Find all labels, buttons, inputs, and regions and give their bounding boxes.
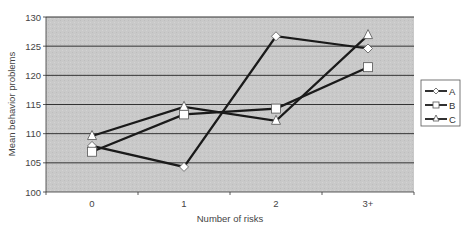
x-tick-label: 0 xyxy=(89,198,94,209)
y-tick-label: 120 xyxy=(25,70,41,81)
x-axis: 0123+ xyxy=(46,192,414,209)
line-chart: 100105110115120125130 0123+ Mean behavio… xyxy=(0,0,470,234)
y-tick-label: 110 xyxy=(26,128,41,139)
square-marker xyxy=(433,102,439,108)
x-axis-title: Number of risks xyxy=(197,213,264,224)
y-tick-label: 105 xyxy=(25,157,41,168)
square-marker xyxy=(364,63,373,72)
y-tick-label: 100 xyxy=(25,187,41,198)
y-axis-title: Mean behavior problems xyxy=(6,51,17,156)
legend: ABC xyxy=(421,80,460,126)
square-marker xyxy=(88,147,97,156)
x-tick-label: 1 xyxy=(181,198,186,209)
y-axis: 100105110115120125130 xyxy=(25,12,46,198)
square-marker xyxy=(180,110,189,119)
legend-label: C xyxy=(449,114,456,125)
square-marker xyxy=(272,104,281,113)
legend-label: B xyxy=(449,100,455,111)
y-tick-label: 130 xyxy=(25,12,41,23)
x-tick-label: 2 xyxy=(273,198,278,209)
y-tick-label: 125 xyxy=(25,41,41,52)
x-tick-label: 3+ xyxy=(363,198,374,209)
legend-label: A xyxy=(449,86,456,97)
y-tick-label: 115 xyxy=(26,99,41,110)
